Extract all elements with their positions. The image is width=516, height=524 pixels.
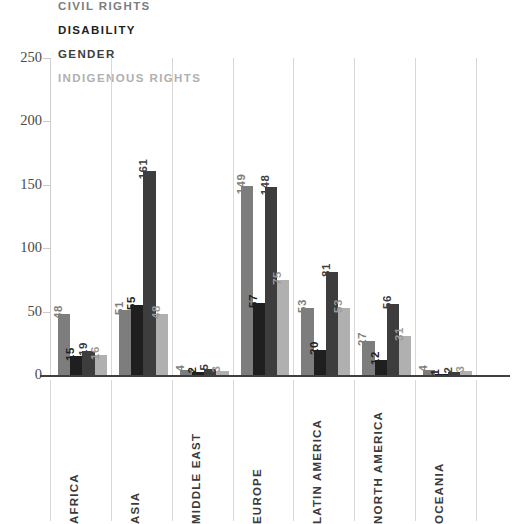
bar-africa-indigenous-rights[interactable]: 16 [95,355,107,375]
bar-value-label: 51 [113,301,125,315]
bar-value-label: 2 [186,367,198,374]
plot-area: 4815191651551614842531495714875532081532… [50,58,476,375]
bar-value-label: 27 [356,332,368,346]
bar-europe-indigenous-rights[interactable]: 75 [277,280,289,375]
category-label: NORTH AMERICA [372,411,384,524]
category-label: OCEANIA [433,463,445,524]
y-tick-mark-250 [43,58,51,59]
bar-latin-america-gender[interactable]: 81 [326,272,338,375]
bar-asia-indigenous-rights[interactable]: 48 [156,314,168,375]
bar-north-america-indigenous-rights[interactable]: 31 [399,336,411,375]
y-tick-label-50: 50 [2,303,42,320]
group-separator-2 [172,58,173,375]
bar-value-label: 48 [150,305,162,319]
bar-value-label: 75 [271,271,283,285]
bars: 515516148 [119,58,168,375]
y-tick-mark-50 [43,312,51,313]
bar-latin-america-disability[interactable]: 20 [314,350,326,375]
y-tick-label-0: 0 [2,366,42,383]
category-label: ASIA [129,492,141,524]
x-axis-categories: AFRICAASIAMIDDLE EASTEUROPELATIN AMERICA… [50,380,476,521]
bar-latin-america-indigenous-rights[interactable]: 53 [338,308,350,375]
category-slot-africa: AFRICA [50,380,111,521]
bars: 27125631 [362,58,411,375]
bar-europe-civil-rights[interactable]: 149 [241,186,253,375]
bar-value-label: 81 [320,263,332,277]
legend-label-1: DISABILITY [58,24,136,36]
bar-group-africa: 48151916 [58,58,107,375]
group-separator-5 [354,58,355,375]
bar-value-label: 2 [442,367,454,374]
bar-value-label: 53 [332,299,344,313]
y-tick-label-200: 200 [2,112,42,129]
bar-group-north-america: 27125631 [362,58,411,375]
bar-asia-disability[interactable]: 55 [131,305,143,375]
bar-value-label: 5 [198,363,210,370]
bar-value-label: 53 [296,299,308,313]
bar-north-america-disability[interactable]: 12 [375,360,387,375]
bar-value-label: 56 [381,295,393,309]
bar-value-label: 4 [174,364,186,371]
bars: 48151916 [58,58,107,375]
bar-asia-civil-rights[interactable]: 51 [119,310,131,375]
bars: 53208153 [301,58,350,375]
group-separator-6 [415,58,416,375]
legend-item-civil-rights: CIVIL RIGHTS [58,0,358,18]
y-tick-label-100: 100 [2,239,42,256]
bar-value-label: 4 [417,364,429,371]
category-slot-oceania: OCEANIA [415,380,476,521]
y-axis: 050100150200250 [0,0,42,521]
category-slot-middle-east: MIDDLE EAST [172,380,233,521]
bar-group-latin-america: 53208153 [301,58,350,375]
y-tick-label-250: 250 [2,49,42,66]
bar-value-label: 148 [259,175,271,196]
category-label: AFRICA [68,473,80,524]
bars: 1495714875 [241,58,290,375]
category-slot-asia: ASIA [111,380,172,521]
group-separator-7 [476,58,477,375]
bar-value-label: 57 [247,294,259,308]
bar-value-label: 48 [52,305,64,319]
group-separator-1 [111,58,112,375]
bar-group-middle-east: 4253 [180,58,229,375]
bar-europe-disability[interactable]: 57 [253,303,265,375]
bar-africa-disability[interactable]: 15 [70,356,82,375]
bar-group-europe: 1495714875 [241,58,290,375]
y-tick-label-150: 150 [2,176,42,193]
bar-value-label: 31 [393,327,405,341]
bar-value-label: 3 [454,366,466,373]
y-tick-mark-150 [43,185,51,186]
legend-item-disability: DISABILITY [58,18,358,42]
bar-value-label: 12 [369,351,381,365]
group-separator-4 [293,58,294,375]
category-slot-north-america: NORTH AMERICA [354,380,415,521]
x-axis-baseline [40,375,510,377]
bar-value-label: 19 [77,342,89,356]
y-tick-mark-200 [43,121,51,122]
y-tick-mark-100 [43,248,51,249]
bar-value-label: 161 [137,159,149,180]
category-separator-7 [476,380,477,521]
bar-value-label: 55 [125,296,137,310]
legend-label-0: CIVIL RIGHTS [58,0,151,12]
category-label: MIDDLE EAST [190,433,202,524]
bar-value-label: 16 [89,346,101,360]
group-separator-3 [233,58,234,375]
bar-africa-civil-rights[interactable]: 48 [58,314,70,375]
bar-value-label: 15 [64,347,76,361]
bar-value-label: 149 [235,174,247,195]
bars: 4253 [180,58,229,375]
bar-value-label: 3 [210,366,222,373]
category-label: EUROPE [251,468,263,524]
category-slot-latin-america: LATIN AMERICA [293,380,354,521]
bars: 4123 [423,58,472,375]
category-slot-europe: EUROPE [233,380,294,521]
bar-value-label: 20 [308,341,320,355]
bar-asia-gender[interactable]: 161 [143,171,155,375]
bar-group-oceania: 4123 [423,58,472,375]
bar-group-asia: 515516148 [119,58,168,375]
category-label: LATIN AMERICA [311,419,323,524]
